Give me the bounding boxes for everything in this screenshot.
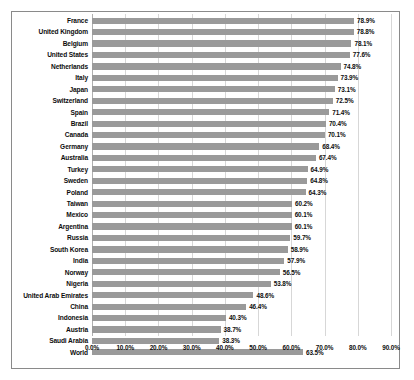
x-axis-tick-label: 70.0% [316,342,334,354]
bar-row: Sweden64.8% [12,175,399,186]
bar-row: Netherlands74.8% [12,61,399,72]
category-label: Japan [0,84,88,95]
category-label: Canada [0,129,88,140]
bar-track: 74.8% [92,61,399,72]
bar-row: Spain71.4% [12,107,399,118]
category-label: China [0,301,88,312]
category-label: United Arab Emirates [0,290,88,301]
category-label: South Korea [0,244,88,255]
bar-value-label: 64.8% [307,175,328,186]
bar-track: 72.5% [92,95,399,106]
category-label: Indonesia [0,312,88,323]
bar [92,326,221,332]
bar-track: 46.4% [92,301,399,312]
bar-value-label: 64.3% [306,187,327,198]
category-label: Norway [0,267,88,278]
bar [92,155,316,161]
bar-row: Japan73.1% [12,84,399,95]
bar [92,98,333,104]
bar [92,292,253,298]
x-axis-tick-label: 0.0% [85,342,99,354]
category-label: Brazil [0,118,88,129]
bar-rows: France78.9%United Kingdom78.8%Belgium78.… [12,15,399,358]
bar-value-label: 60.2% [292,198,313,209]
category-label: Switzerland [0,95,88,106]
x-axis-tick-label: 30.0% [183,342,201,354]
bar [92,258,284,264]
bar-value-label: 48.6% [253,290,274,301]
bar-track: 78.9% [92,15,399,26]
bar-value-label: 70.4% [326,118,347,129]
category-label: Turkey [0,164,88,175]
bar-track: 58.9% [92,244,399,255]
bar [92,52,350,58]
category-label: Netherlands [0,61,88,72]
x-axis-tick-label: 80.0% [349,342,367,354]
bar-row: United Kingdom78.8% [12,26,399,37]
bar-track: 73.1% [92,84,399,95]
bar-value-label: 72.5% [333,95,354,106]
bar [92,121,326,127]
bar-row: Poland64.3% [12,187,399,198]
bar [92,178,307,184]
bar-row: France78.9% [12,15,399,26]
bar-value-label: 67.4% [316,152,337,163]
chart-frame: France78.9%United Kingdom78.8%Belgium78.… [11,11,400,369]
bar-value-label: 73.9% [338,72,359,83]
bar-value-label: 38.7% [221,324,242,335]
x-axis-tick-label: 50.0% [249,342,267,354]
bar-track: 78.1% [92,38,399,49]
bar-row: Turkey64.9% [12,164,399,175]
bar-value-label: 71.4% [329,107,350,118]
bar-row: United States77.6% [12,49,399,60]
bar [92,281,271,287]
bar-value-label: 64.9% [308,164,329,175]
bar-row: Australia67.4% [12,152,399,163]
category-label: Nigeria [0,278,88,289]
bar [92,86,335,92]
bar-row: Canada70.1% [12,129,399,140]
x-axis: 0.0%10.0%20.0%30.0%40.0%50.0%60.0%70.0%8… [12,342,399,354]
bar-track: 70.1% [92,129,399,140]
bar-row: Switzerland72.5% [12,95,399,106]
bar-track: 38.7% [92,324,399,335]
bar [92,223,292,229]
category-label: Mexico [0,209,88,220]
bar-value-label: 70.1% [325,129,346,140]
bar [92,235,290,241]
x-axis-tick-label: 10.0% [116,342,134,354]
bar-value-label: 56.5% [280,267,301,278]
bar-row: Belgium78.1% [12,38,399,49]
bar [92,29,354,35]
bar-row: Mexico60.1% [12,209,399,220]
bar [92,109,329,115]
bar-track: 67.4% [92,152,399,163]
bar-track: 48.6% [92,290,399,301]
bar [92,166,308,172]
bar-row: Germany68.4% [12,141,399,152]
bar-value-label: 58.9% [288,244,309,255]
bar-row: Nigeria53.8% [12,278,399,289]
x-axis-tick-label: 90.0% [382,342,400,354]
bar-row: South Korea58.9% [12,244,399,255]
bar [92,75,338,81]
bar [92,143,319,149]
bar-track: 73.9% [92,72,399,83]
category-label: France [0,15,88,26]
bar-row: India57.9% [12,255,399,266]
bar-row: Italy73.9% [12,72,399,83]
bar-row: Brazil70.4% [12,118,399,129]
category-label: Taiwan [0,198,88,209]
bar-row: Taiwan60.2% [12,198,399,209]
bar-value-label: 46.4% [246,301,267,312]
bar-track: 71.4% [92,107,399,118]
category-label: Sweden [0,175,88,186]
bar-value-label: 73.1% [335,84,356,95]
bar-value-label: 78.9% [354,15,375,26]
bar [92,269,280,275]
category-label: Belgium [0,38,88,49]
bar-value-label: 68.4% [319,141,340,152]
bar-track: 77.6% [92,49,399,60]
category-label: Australia [0,152,88,163]
category-label: Germany [0,141,88,152]
